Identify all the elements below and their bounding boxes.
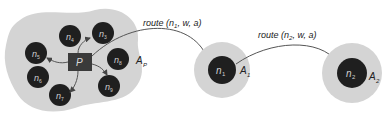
blob-node-n4: n 4	[59, 25, 81, 47]
svg-text:7: 7	[61, 96, 64, 102]
blob-node-n5: n 5	[25, 42, 47, 64]
svg-text:5: 5	[37, 54, 40, 60]
svg-text:6: 6	[39, 78, 42, 84]
svg-text:4: 4	[71, 37, 74, 43]
svg-text:8: 8	[119, 60, 122, 66]
route-2-arrow	[236, 45, 337, 64]
svg-text:2: 2	[375, 78, 380, 84]
svg-text:route (n1, w, a): route (n1, w, a)	[143, 18, 201, 29]
blob-node-n6: n 6	[27, 66, 49, 88]
svg-text:A: A	[368, 71, 376, 82]
diagram-canvas: n 4 n 3 n 5 n 6 n 7 n 8 n 9 P	[0, 0, 392, 119]
blob-node-n3: n 3	[92, 22, 114, 44]
svg-text:A: A	[135, 55, 143, 66]
target-node-n1: n 1 A 1	[194, 42, 250, 98]
svg-text:P: P	[76, 57, 83, 68]
route-2-label: route (n2, w, a)	[258, 30, 316, 41]
svg-text:route (n2, w, a): route (n2, w, a)	[258, 30, 316, 41]
process-p: P	[68, 53, 92, 71]
svg-text:A: A	[239, 65, 247, 76]
blob-node-n7: n 7	[49, 84, 71, 106]
blob-node-n9: n 9	[98, 75, 120, 97]
target-node-n2: n 2 A 2	[322, 43, 382, 103]
svg-text:1: 1	[247, 72, 250, 78]
route-1-label: route (n1, w, a)	[143, 18, 201, 29]
svg-text:P: P	[143, 62, 147, 68]
blob-node-n8: n 8	[107, 48, 129, 70]
svg-text:3: 3	[104, 34, 107, 40]
svg-text:9: 9	[110, 87, 113, 93]
